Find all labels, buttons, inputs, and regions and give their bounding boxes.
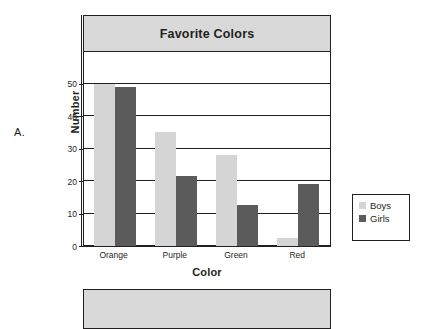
x-tick-label-purple: Purple — [163, 250, 188, 260]
bar-red-girls — [298, 184, 319, 246]
y-tick-label-0: 0 — [72, 243, 77, 252]
legend-label-girls: Girls — [370, 214, 390, 224]
y-tick-label-30: 30 — [68, 145, 77, 154]
y-tick-0 — [79, 246, 83, 247]
bar-purple-girls — [176, 176, 197, 246]
y-tick-50 — [79, 84, 83, 85]
bar-green-girls — [237, 205, 258, 246]
y-tick-label-50: 50 — [68, 80, 77, 89]
bar-red-boys — [277, 238, 298, 246]
chart-title: Favorite Colors — [160, 27, 255, 41]
x-tick-label-green: Green — [224, 250, 248, 260]
y-axis-line — [81, 15, 82, 247]
figure-label: A. — [14, 126, 25, 138]
next-chart-title-band — [83, 289, 331, 329]
bar-chart: Favorite Colors — [83, 15, 331, 247]
bars-layer — [84, 53, 330, 246]
x-tick-label-orange: Orange — [99, 250, 127, 260]
bar-green-boys — [216, 155, 237, 246]
y-axis-title: Number — [69, 91, 81, 134]
legend-item-girls: Girls — [359, 214, 409, 224]
girls-swatch-icon — [359, 215, 366, 222]
x-axis-tick-labels: OrangePurpleGreenRed — [83, 250, 331, 264]
bar-orange-boys — [94, 84, 115, 247]
y-tick-30 — [79, 149, 83, 150]
y-tick-label-10: 10 — [68, 210, 77, 219]
chart-title-band: Favorite Colors — [84, 16, 330, 52]
boys-swatch-icon — [359, 202, 366, 209]
y-tick-20 — [79, 181, 83, 182]
x-axis-title: Color — [83, 266, 331, 278]
plot-area — [84, 53, 330, 246]
bar-orange-girls — [115, 87, 136, 246]
y-tick-10 — [79, 214, 83, 215]
bar-purple-boys — [155, 132, 176, 246]
chart-legend: Boys Girls — [352, 194, 410, 241]
x-tick-label-red: Red — [289, 250, 305, 260]
legend-label-boys: Boys — [370, 201, 391, 211]
y-tick-label-20: 20 — [68, 178, 77, 187]
legend-item-boys: Boys — [359, 201, 409, 211]
